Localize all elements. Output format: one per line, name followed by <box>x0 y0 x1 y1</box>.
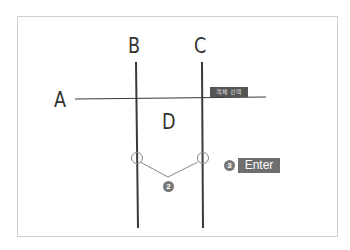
label-a: A <box>54 89 66 111</box>
leader-lines <box>140 162 198 177</box>
line-c[interactable] <box>202 62 203 228</box>
object-select-tooltip: 객체 선택 <box>210 87 248 97</box>
enter-key-button[interactable]: Enter <box>238 158 280 173</box>
label-b: B <box>128 35 140 57</box>
step-3-badge: 3 <box>224 160 235 171</box>
line-a[interactable] <box>75 97 266 99</box>
line-b[interactable] <box>136 62 138 228</box>
label-c: C <box>194 35 206 57</box>
step-2-badge: 2 <box>163 181 174 192</box>
cursor-mark <box>201 76 203 79</box>
label-d: D <box>162 111 176 133</box>
